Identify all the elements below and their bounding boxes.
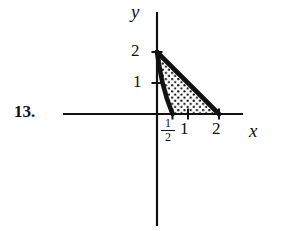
y-axis-label: y bbox=[131, 2, 139, 21]
x-axis-label: x bbox=[249, 121, 257, 140]
x-tick-label-1: 1 bbox=[180, 120, 189, 137]
y-tick-label-1: 1 bbox=[133, 73, 142, 90]
coordinate-plane-figure bbox=[0, 0, 281, 231]
y-tick-label-2: 2 bbox=[131, 42, 140, 59]
x-tick-label-2: 2 bbox=[212, 120, 221, 137]
fraction-numerator: 1 bbox=[160, 117, 176, 129]
x-tick-label-half: 1 2 bbox=[160, 117, 176, 143]
fraction-denominator: 2 bbox=[160, 131, 176, 143]
